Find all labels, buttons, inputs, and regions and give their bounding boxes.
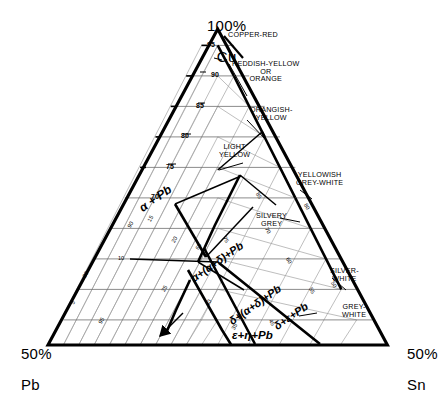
corner-pb-value: 50% — [21, 345, 52, 362]
corner-pb-element: Pb — [21, 376, 40, 393]
color-label-orangish-yellow: ORANGISH- YELLOW — [250, 106, 293, 121]
minor-tick-10: 10 — [118, 256, 124, 262]
phase-label-epsilon-eta-pb: ε+η+Pb — [232, 329, 273, 341]
color-label-yellowish-grey-white: YELLOWISH GREY-WHITE — [296, 171, 343, 186]
tick-label-90: 90 — [211, 71, 219, 78]
color-label-silver-white: SILVER- WHITE — [330, 267, 359, 282]
color-label-silvery-grey: SILVERY GREY — [256, 212, 287, 227]
corner-label-pb: 50% Pb — [3, 330, 52, 394]
direction-arrow — [160, 313, 183, 336]
corner-sn-element: Sn — [407, 376, 426, 393]
color-label-reddish-yellow: REDDISH-YELLOW OR ORANGE — [232, 60, 300, 83]
grid-lines-right — [48, 45, 357, 345]
tick-label-95: 95 — [207, 41, 215, 48]
color-label-copper-red: COPPER-RED — [228, 31, 278, 39]
tick-label-85: 85 — [196, 102, 204, 109]
corner-label-sn: 50% Sn — [389, 330, 438, 394]
corner-sn-value: 50% — [407, 345, 438, 362]
tick-label-75: 75 — [166, 163, 174, 170]
color-label-grey-white: GREY- WHITE — [342, 303, 366, 318]
color-label-light-yellow: LIGHT YELLOW — [219, 143, 250, 158]
tick-label-80: 80 — [181, 132, 189, 139]
